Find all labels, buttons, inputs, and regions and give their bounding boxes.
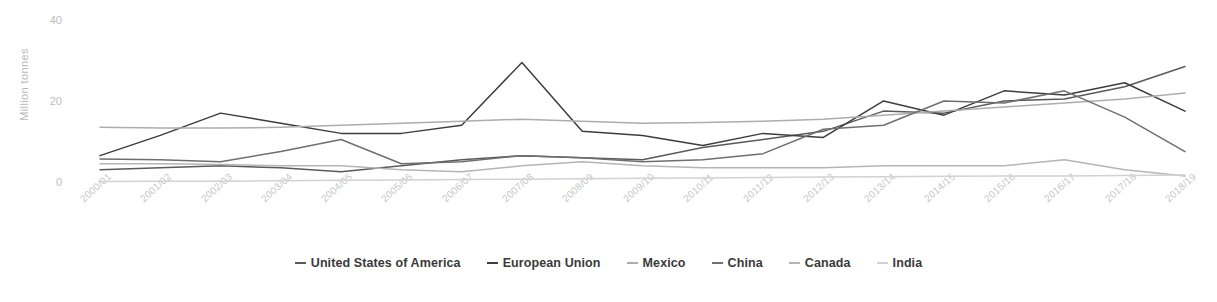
legend-label-china: China xyxy=(728,256,763,270)
legend-item-india[interactable]: India xyxy=(877,256,923,270)
legend-swatch-european-union xyxy=(487,262,498,264)
legend-swatch-united-states-of-america xyxy=(295,262,306,264)
legend-swatch-india xyxy=(877,262,888,264)
legend-item-mexico[interactable]: Mexico xyxy=(627,256,686,270)
legend-label-canada: Canada xyxy=(805,256,851,270)
legend-label-united-states-of-america: United States of America xyxy=(311,256,461,270)
legend-item-european-union[interactable]: European Union xyxy=(487,256,601,270)
legend-item-united-states-of-america[interactable]: United States of America xyxy=(295,256,461,270)
series-line-united-states-of-america xyxy=(100,67,1185,172)
legend-label-mexico: Mexico xyxy=(643,256,686,270)
legend-swatch-china xyxy=(712,262,723,264)
legend-item-china[interactable]: China xyxy=(712,256,763,270)
series-line-european-union xyxy=(100,63,1185,156)
line-chart: Million tonnes 02040 2000/012001/022002/… xyxy=(0,0,1217,302)
chart-legend: United States of AmericaEuropean UnionMe… xyxy=(0,256,1217,270)
legend-label-india: India xyxy=(893,256,923,270)
series-line-mexico xyxy=(100,93,1185,128)
legend-item-canada[interactable]: Canada xyxy=(789,256,851,270)
legend-label-european-union: European Union xyxy=(503,256,601,270)
legend-swatch-mexico xyxy=(627,262,638,264)
legend-swatch-canada xyxy=(789,262,800,264)
series-line-india xyxy=(100,175,1185,181)
